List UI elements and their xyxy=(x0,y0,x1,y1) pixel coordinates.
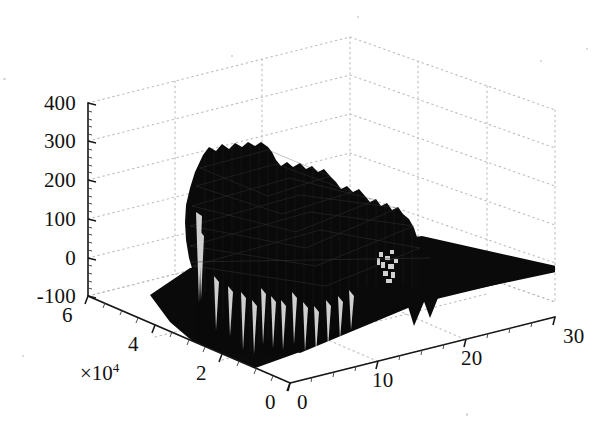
surface-notch-2 xyxy=(406,300,424,326)
y-tick-label-2: 2 xyxy=(196,363,207,384)
z-tick-label-0: 0 xyxy=(14,248,76,269)
x-tick-label-30: 30 xyxy=(563,326,584,347)
surface-mesh xyxy=(150,142,556,370)
scan-speck xyxy=(231,55,233,57)
scan-speck xyxy=(357,16,359,18)
scan-speck xyxy=(3,78,6,80)
x-tick-label-20: 20 xyxy=(461,348,482,369)
z-tick-label-300: 300 xyxy=(14,131,76,152)
y-axis-multiplier-exponent: 4 xyxy=(113,360,120,375)
scan-speck xyxy=(466,413,468,416)
y-tick-label-4: 4 xyxy=(128,334,139,355)
y-tick-label-6: 6 xyxy=(62,305,73,326)
scan-speck xyxy=(586,48,588,50)
scan-speck xyxy=(540,60,542,62)
scan-speck xyxy=(22,355,24,357)
z-tick-label-200: 200 xyxy=(14,170,76,191)
y-axis-multiplier-base: ×10 xyxy=(80,361,113,385)
z-tick-label-400: 400 xyxy=(14,93,76,114)
z-tick-label-100: 100 xyxy=(14,209,76,230)
z-axis-ticks xyxy=(88,103,96,298)
y-axis-multiplier: ×104 xyxy=(80,363,119,384)
y-tick-label-0: 0 xyxy=(265,392,276,413)
matlab-figure-canvas: 400 300 200 100 0 -100 6 4 2 0 ×104 0 10… xyxy=(0,0,613,445)
x-tick-label-0: 0 xyxy=(297,392,308,413)
x-tick-label-10: 10 xyxy=(372,370,393,391)
